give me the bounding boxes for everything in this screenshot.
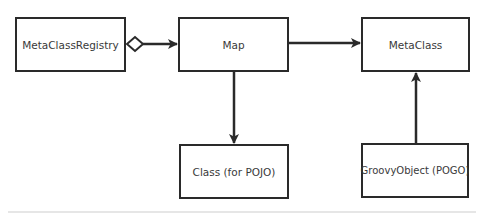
edge-registry-map — [127, 37, 177, 51]
footer-divider — [8, 211, 476, 213]
node-label: Class (for POJO) — [193, 166, 276, 178]
node-label: Map — [222, 39, 244, 51]
node-groovyobject-pogo: GroovyObject (POGO) — [361, 143, 469, 198]
node-label: GroovyObject (POGO) — [361, 165, 470, 176]
node-metaclass: MetaClass — [361, 17, 470, 72]
node-class-pojo: Class (for POJO) — [179, 144, 289, 199]
node-label: MetaClass — [389, 39, 443, 51]
node-map: Map — [178, 17, 289, 72]
diagram-canvas: MetaClassRegistry Map MetaClass Class (f… — [0, 0, 484, 214]
aggregation-diamond-icon — [127, 37, 143, 51]
node-label: MetaClassRegistry — [22, 39, 119, 51]
node-metaclassregistry: MetaClassRegistry — [15, 17, 126, 72]
